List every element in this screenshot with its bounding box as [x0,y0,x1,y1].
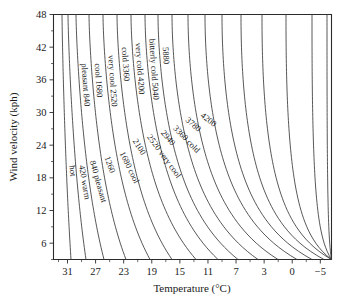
x-tick-label: 3 [262,266,267,277]
chart-canvas: pleasant 840cool 1680very cool 2520cold … [0,0,351,302]
chart-background [0,0,351,302]
y-tick-label: 24 [36,140,47,151]
y-tick-label: 6 [41,238,46,249]
x-tick-label: 19 [147,266,158,277]
x-tick-label: 31 [62,266,73,277]
y-tick-label: 30 [36,107,47,118]
x-tick-label: 7 [233,266,238,277]
x-tick-label: 0 [290,266,295,277]
x-tick-label: 27 [90,266,101,277]
x-axis-title: Temperature (°C) [153,282,231,295]
x-tick-label: 11 [203,266,213,277]
y-axis-title: Wind velocity (kph) [7,92,20,181]
x-tick-label: −5 [315,266,326,277]
contour-label: hot [67,165,78,178]
contour-label: 5880 [161,47,172,65]
wind-chill-chart: pleasant 840cool 1680very cool 2520cold … [0,0,351,302]
y-tick-label: 12 [36,205,47,216]
y-tick-label: 18 [36,172,47,183]
x-tick-label: 23 [118,266,129,277]
y-tick-label: 48 [36,9,47,20]
x-tick-label: 15 [175,266,186,277]
y-tick-label: 36 [36,74,47,85]
y-tick-label: 42 [36,42,47,53]
